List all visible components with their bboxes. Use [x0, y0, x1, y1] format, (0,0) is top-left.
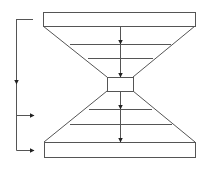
bottom-bar	[45, 143, 196, 158]
lower-funnel-right-side	[133, 91, 195, 142]
lower-funnel-left-side	[44, 91, 107, 142]
middle-box	[108, 78, 134, 92]
hourglass-diagram	[0, 0, 208, 171]
upper-funnel-right-side	[133, 26, 195, 77]
top-bar	[44, 13, 196, 27]
upper-funnel-left-side	[43, 26, 107, 77]
